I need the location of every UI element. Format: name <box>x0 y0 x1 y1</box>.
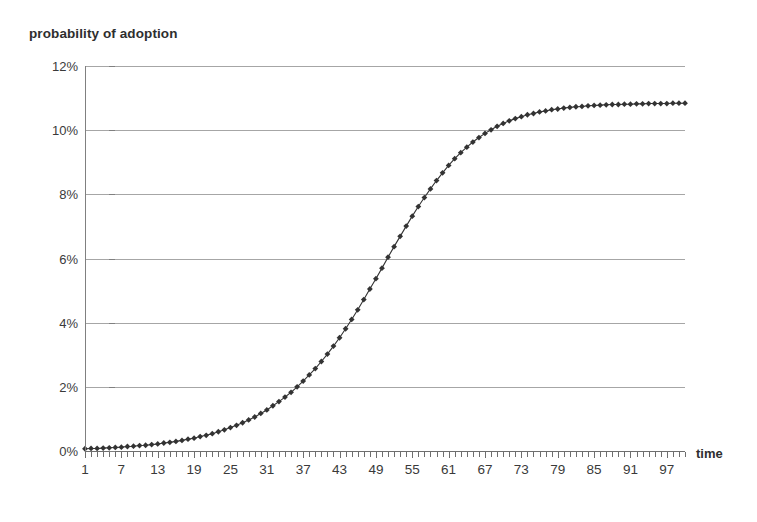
x-axis-tick-mark <box>685 452 686 457</box>
data-point-marker <box>367 286 373 292</box>
data-point-marker <box>197 434 203 440</box>
data-point-marker <box>658 101 664 107</box>
x-axis-tick-mark <box>146 452 147 457</box>
x-axis-tick-label: 97 <box>659 462 674 477</box>
x-axis-tick-mark <box>243 452 244 457</box>
data-point-marker <box>258 411 264 417</box>
data-point-marker <box>246 417 252 423</box>
x-axis-tick-mark <box>249 452 250 457</box>
data-point-marker <box>112 445 118 451</box>
y-axis-tick-mark <box>109 194 115 195</box>
x-axis-tick-mark <box>370 452 371 457</box>
y-axis-tick-mark <box>109 130 115 131</box>
data-point-marker <box>573 104 579 110</box>
data-point-marker <box>125 444 131 450</box>
x-axis-tick-mark <box>667 452 668 458</box>
x-axis-tick-mark <box>200 452 201 457</box>
x-axis-tick-mark <box>637 452 638 457</box>
x-axis-tick-label: 79 <box>550 462 565 477</box>
data-point-marker <box>191 435 197 441</box>
x-axis-tick-label: 37 <box>296 462 311 477</box>
data-point-marker <box>137 443 143 449</box>
data-point-marker <box>634 101 640 107</box>
data-point-marker <box>628 101 634 107</box>
x-axis-tick-mark <box>600 452 601 457</box>
x-axis-tick-mark <box>388 452 389 457</box>
x-axis-tick-mark <box>255 452 256 457</box>
x-axis-tick-mark <box>612 452 613 457</box>
x-axis-tick-label: 67 <box>477 462 492 477</box>
x-axis-tick-mark <box>630 452 631 458</box>
data-point-marker <box>500 121 506 127</box>
x-axis-tick-mark <box>115 452 116 457</box>
series-line-probability-of-adoption <box>85 66 685 451</box>
data-point-marker <box>652 101 658 107</box>
data-point-marker <box>391 244 397 250</box>
x-axis-tick-mark <box>473 452 474 457</box>
x-axis-tick-mark <box>321 452 322 457</box>
data-point-marker <box>518 114 524 120</box>
x-axis-tick-mark <box>109 452 110 457</box>
x-axis-tick-label: 1 <box>81 462 89 477</box>
data-point-marker <box>664 101 670 107</box>
x-axis-tick-mark <box>237 452 238 457</box>
x-axis-tick-label: 43 <box>332 462 347 477</box>
data-point-marker <box>185 436 191 442</box>
x-axis-tick-mark <box>315 452 316 457</box>
data-point-marker <box>670 100 676 106</box>
x-axis-tick-label: 73 <box>514 462 529 477</box>
x-axis-tick-mark <box>546 452 547 457</box>
data-point-marker <box>603 102 609 108</box>
x-axis-tick-mark <box>103 452 104 457</box>
x-axis-tick-mark <box>594 452 595 458</box>
x-axis-tick-mark <box>176 452 177 457</box>
x-axis-tick-mark <box>309 452 310 457</box>
x-axis-tick-mark <box>340 452 341 458</box>
x-axis-tick-mark <box>152 452 153 457</box>
y-axis-tick-labels: 0%2%4%6%8%10%12% <box>30 0 78 522</box>
data-point-marker <box>579 104 585 110</box>
data-point-marker <box>506 118 512 124</box>
x-axis-tick-mark <box>261 452 262 457</box>
x-axis-tick-label: 49 <box>368 462 383 477</box>
data-point-marker <box>525 112 531 118</box>
x-axis-tick-mark <box>212 452 213 457</box>
x-axis-tick-mark <box>570 452 571 457</box>
x-axis-tick-mark <box>491 452 492 457</box>
x-axis-tick-mark <box>412 452 413 458</box>
x-axis-tick-mark <box>503 452 504 457</box>
x-axis-tick-label: 13 <box>150 462 165 477</box>
y-axis-tick-label: 6% <box>32 251 78 266</box>
x-axis-tick-mark <box>418 452 419 457</box>
data-point-marker <box>537 109 543 115</box>
x-axis-tick-mark <box>327 452 328 457</box>
data-point-marker <box>609 102 615 108</box>
x-axis-tick-mark <box>358 452 359 457</box>
x-axis-tick-mark <box>333 452 334 457</box>
data-point-marker <box>379 265 385 271</box>
x-axis-tick-mark <box>394 452 395 457</box>
data-point-marker <box>155 441 161 447</box>
x-axis-tick-mark <box>224 452 225 457</box>
data-point-marker <box>173 438 179 444</box>
x-axis-tick-mark <box>121 452 122 458</box>
x-axis-tick-mark <box>382 452 383 457</box>
data-point-marker <box>621 101 627 107</box>
data-point-marker <box>512 116 518 122</box>
data-point-marker <box>215 429 221 435</box>
x-axis-tick-mark <box>437 452 438 457</box>
x-axis-tick-mark <box>527 452 528 457</box>
data-point-marker <box>167 439 173 445</box>
x-axis-tick-mark <box>430 452 431 457</box>
x-axis-tick-mark <box>533 452 534 457</box>
data-point-marker <box>234 422 240 428</box>
data-point-marker <box>543 108 549 114</box>
x-axis-tick-mark <box>661 452 662 457</box>
x-axis-tick-mark <box>297 452 298 457</box>
y-axis-tick-label: 12% <box>32 59 78 74</box>
x-axis-tick-mark <box>582 452 583 457</box>
x-axis-tick-mark <box>158 452 159 458</box>
data-point-marker <box>403 223 409 229</box>
x-axis-tick-mark <box>182 452 183 457</box>
y-axis-tick-label: 0% <box>32 444 78 459</box>
